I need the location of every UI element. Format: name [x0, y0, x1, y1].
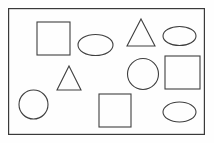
square-middle-right: [165, 56, 200, 89]
ellipse-upper-left-center: [78, 35, 113, 56]
circle-middle-center: [128, 59, 159, 90]
triangle-top-center: [127, 19, 155, 46]
ellipse-bottom-right: [163, 102, 196, 122]
shapes-figure: [0, 0, 214, 143]
ellipse-top-right: [163, 27, 196, 46]
square-top-left: [37, 22, 70, 55]
shape-canvas: [0, 0, 214, 143]
outer-rectangle-border: [9, 9, 205, 135]
triangle-middle-left: [57, 66, 81, 90]
square-bottom-center: [99, 94, 131, 127]
circle-bottom-left: [19, 90, 48, 119]
